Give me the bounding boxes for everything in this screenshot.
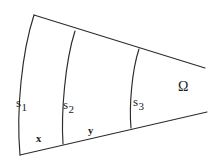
arc-label-s3-base: s [133, 94, 138, 109]
arc-s2 [63, 31, 76, 144]
arc-label-s2-base: s [63, 97, 68, 112]
arc-label-s2: s2 [63, 98, 74, 111]
arc-label-s3-subscript: 3 [139, 100, 145, 112]
top-boundary-ray [34, 15, 205, 68]
diagram-canvas: s1 s2 s3 x y Ω [0, 0, 213, 167]
bottom-boundary-ray [20, 112, 207, 155]
point-label-x: x [36, 134, 41, 145]
arc-s1 [19, 15, 34, 155]
arc-label-s2-subscript: 2 [69, 103, 75, 115]
region-label-omega: Ω [178, 80, 188, 94]
arc-label-s1-base: s [16, 95, 21, 110]
arc-label-s1: s1 [16, 96, 27, 109]
arc-label-s1-subscript: 1 [22, 101, 28, 113]
point-label-y: y [88, 126, 93, 137]
arc-s3 [130, 49, 139, 128]
arc-label-s3: s3 [133, 95, 144, 108]
